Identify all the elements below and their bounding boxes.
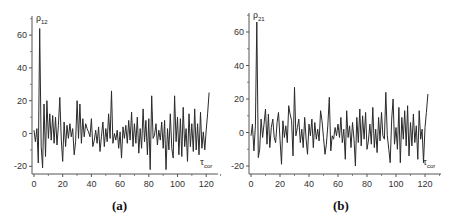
y-tick-label: 0	[239, 128, 244, 138]
x-tick-label: 20	[58, 179, 68, 189]
y-axis-label: ρ21	[253, 9, 265, 22]
x-tick-label: 60	[333, 179, 343, 189]
x-tick-label: 20	[275, 179, 285, 189]
x-tick-label: 80	[144, 179, 154, 189]
y-axis-label: ρ12	[36, 12, 48, 25]
x-axis-label: τcor	[200, 156, 212, 169]
panel-caption-a: (a)	[112, 198, 127, 214]
line-chart-b: 020406080100120-200204060ρ21τcor	[227, 0, 454, 219]
x-tick-label: 0	[31, 179, 36, 189]
x-tick-label: 120	[417, 179, 432, 189]
chart-panel-a: 020406080100120-200204060ρ12τcor (a)	[0, 0, 227, 219]
panel-caption-b: (b)	[333, 198, 349, 214]
x-tick-label: 0	[248, 179, 253, 189]
y-tick-label: 60	[234, 27, 244, 37]
y-tick-label: 40	[234, 61, 244, 71]
y-tick-label: 20	[234, 94, 244, 104]
y-tick-label: -20	[231, 161, 244, 171]
x-tick-label: 60	[115, 179, 125, 189]
y-tick-label: -20	[14, 161, 27, 171]
x-tick-label: 40	[304, 179, 314, 189]
line-chart-a: 020406080100120-200204060ρ12τcor	[0, 0, 227, 219]
y-tick-label: 0	[22, 129, 27, 139]
y-tick-label: 20	[17, 96, 27, 106]
chart-panel-b: 020406080100120-200204060ρ21τcor (b)	[227, 0, 454, 219]
x-tick-label: 40	[86, 179, 96, 189]
x-tick-label: 100	[388, 179, 403, 189]
x-tick-label: 120	[199, 179, 214, 189]
data-series-line	[251, 22, 428, 166]
y-tick-label: 60	[17, 30, 27, 40]
data-series-line	[34, 29, 209, 170]
x-tick-label: 100	[170, 179, 185, 189]
x-axis-label: τcor	[423, 156, 435, 169]
y-tick-label: 40	[17, 63, 27, 73]
x-tick-label: 80	[362, 179, 372, 189]
